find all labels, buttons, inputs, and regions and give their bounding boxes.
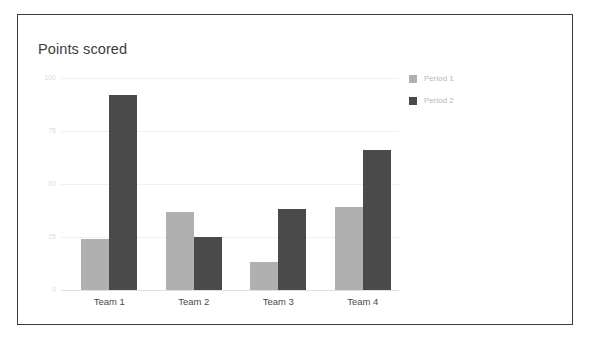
- chart-legend: Period 1Period 2: [409, 70, 454, 114]
- plot-area: 0255075100 Team 1Team 2Team 3Team 4: [18, 15, 574, 326]
- bar-team-2-period-2[interactable]: [194, 237, 222, 290]
- x-axis-tick-team-3: Team 3: [233, 296, 323, 307]
- x-axis-tick-team-4: Team 4: [318, 296, 408, 307]
- bar-groups: [18, 15, 574, 290]
- bar-team-3-period-2[interactable]: [278, 209, 306, 290]
- legend-item-period-1[interactable]: Period 1: [409, 70, 454, 87]
- bar-team-4-period-1[interactable]: [335, 207, 363, 290]
- legend-item-period-2[interactable]: Period 2: [409, 92, 454, 109]
- x-axis-tick-team-2: Team 2: [149, 296, 239, 307]
- bar-team-3-period-1[interactable]: [250, 262, 278, 290]
- legend-label: Period 1: [424, 74, 454, 83]
- bar-team-1-period-2[interactable]: [109, 95, 137, 290]
- square-swatch-icon: [409, 75, 417, 83]
- bar-team-2-period-1[interactable]: [166, 212, 194, 290]
- gridline-0: [61, 290, 399, 291]
- chart-card: Points scored 0255075100 Team 1Team 2Tea…: [17, 14, 573, 325]
- bar-team-1-period-1[interactable]: [81, 239, 109, 290]
- square-swatch-icon: [409, 97, 417, 105]
- bar-team-4-period-2[interactable]: [363, 150, 391, 290]
- x-axis-tick-team-1: Team 1: [64, 296, 154, 307]
- legend-label: Period 2: [424, 96, 454, 105]
